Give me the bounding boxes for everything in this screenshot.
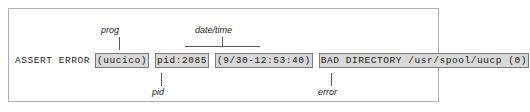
leader-line-pid bbox=[161, 73, 162, 86]
log-line: ASSERT ERROR(uucico)pid:2085(9/30-12:53:… bbox=[15, 53, 530, 68]
log-segment-datetime: (9/30-12:53:40) bbox=[215, 53, 313, 68]
figure-frame: ASSERT ERROR(uucico)pid:2085(9/30-12:53:… bbox=[8, 8, 439, 102]
leader-line-datetime-stem bbox=[222, 37, 223, 46]
log-segment-pid: pid:2085 bbox=[155, 53, 209, 68]
annotation-label-error: error bbox=[318, 87, 337, 97]
annotation-label-prog: prog bbox=[101, 25, 119, 35]
log-segment-error: BAD DIRECTORY /usr/spool/uucp (0) bbox=[319, 53, 529, 68]
annotation-label-datetime: date/time bbox=[195, 25, 232, 35]
leader-line-prog bbox=[119, 37, 120, 50]
leader-line-error bbox=[331, 73, 332, 86]
log-segment-prog: (uucico) bbox=[95, 53, 149, 68]
log-segment-prefix: ASSERT ERROR bbox=[15, 53, 90, 68]
annotation-label-pid: pid bbox=[152, 87, 164, 97]
leader-line-datetime-bracket bbox=[185, 46, 260, 47]
